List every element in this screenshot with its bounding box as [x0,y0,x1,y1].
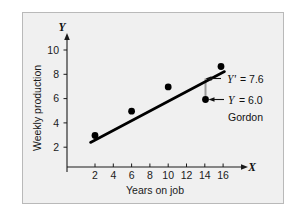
data-point [218,63,225,70]
data-point [92,132,99,139]
x-axis: 2 4 6 8 10 12 14 16 X Years on job [67,161,256,196]
x-tick-label-8: 8 [147,169,153,181]
y-axis-title: Weekly production [31,65,43,151]
x-tick-label-4: 4 [110,169,116,181]
x-tick-label-2: 2 [92,169,98,181]
y-axis-symbol: Y [58,21,66,33]
scatter-plot: 10 8 6 4 2 Y Weekly production 2 4 6 8 1… [0,0,308,219]
x-axis-arrowhead [241,164,248,170]
x-tick-label-6: 6 [129,169,135,181]
data-point [128,108,135,115]
data-point [165,84,172,91]
x-axis-symbol: X [247,161,256,173]
y-tick-label-2: 2 [53,141,59,153]
y-tick-label-6: 6 [53,92,59,104]
data-point [202,96,209,103]
y-tick-label-10: 10 [47,44,59,56]
y-axis-arrowhead [64,33,70,40]
predicted-value-label: = 7.6 [240,73,264,85]
x-tick-label-12: 12 [181,169,193,181]
x-axis-title: Years on job [126,184,184,196]
actual-value-label: = 6.0 [239,94,263,106]
actual-variable-label: Y [228,94,236,106]
predicted-variable-label: Y' [227,73,236,85]
data-points [92,63,225,139]
y-tick-label-8: 8 [53,68,59,80]
x-tick-label-10: 10 [162,169,174,181]
regression-line [91,72,225,143]
x-tick-label-16: 16 [217,169,229,181]
x-tick-label-14: 14 [199,169,211,181]
actual-arrowhead-icon [209,97,215,102]
figure-container: 10 8 6 4 2 Y Weekly production 2 4 6 8 1… [0,0,308,219]
y-axis: 10 8 6 4 2 Y Weekly production [31,21,70,172]
annotation-labels: Y' = 7.6 Y = 6.0 Gordon [227,73,264,124]
case-name-label: Gordon [228,111,263,123]
y-tick-label-4: 4 [53,117,59,129]
